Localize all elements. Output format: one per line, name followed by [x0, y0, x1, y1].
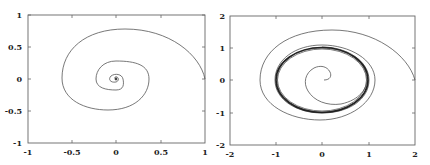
left-ytick-label: 0.5 [8, 42, 22, 52]
left-xtick-label: 1 [202, 147, 208, 157]
left-ytick-label: 1 [16, 10, 22, 20]
right-plot-frame [230, 16, 415, 145]
right-xtick-label: 0 [319, 149, 325, 159]
right-ytick-label: 1 [219, 43, 225, 53]
left-phase-plot: 1 0.5 0 -0.5 -1 -1 -0.5 0 0.5 1 [0, 0, 215, 165]
right-xtick-label: -1 [272, 149, 281, 159]
right-xtick-label: -2 [226, 149, 235, 159]
left-fixed-point [115, 78, 118, 81]
left-xtick-label: 0.5 [154, 147, 168, 157]
left-plot-svg: 1 0.5 0 -0.5 -1 -1 -0.5 0 0.5 1 [0, 0, 215, 165]
right-phase-plot: 2 1 0 -1 -2 -2 -1 0 1 2 [215, 0, 430, 165]
right-limit-cycle [276, 48, 368, 113]
right-ytick-label: 2 [219, 11, 225, 21]
left-xtick-label: 0 [113, 147, 119, 157]
right-ytick-label: 0 [219, 75, 225, 85]
right-xtick-label: 1 [366, 149, 372, 159]
left-ytick-label: 0 [16, 74, 22, 84]
right-ytick-label: -2 [216, 140, 225, 150]
left-xtick-label: -0.5 [63, 147, 80, 157]
right-limit-cycle-inner-pass [278, 49, 367, 111]
right-x-ticks [276, 16, 369, 145]
right-outer-trajectory [260, 30, 415, 120]
right-plot-svg: 2 1 0 -1 -2 -2 -1 0 1 2 [215, 0, 430, 165]
left-ytick-label: -1 [13, 138, 22, 148]
right-ytick-label: -1 [216, 108, 225, 118]
left-xtick-label: -1 [24, 147, 33, 157]
right-y-ticks [230, 48, 415, 113]
right-xtick-label: 2 [412, 149, 418, 159]
left-ytick-label: -0.5 [5, 106, 22, 116]
left-spiral-trajectory [62, 29, 205, 110]
